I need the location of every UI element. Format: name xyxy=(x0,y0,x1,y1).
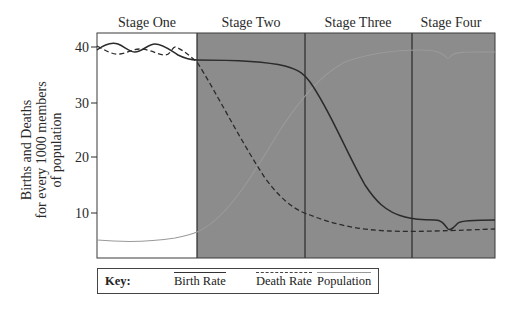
y-axis-label: Births and Deaths for every 1000 members… xyxy=(19,81,64,218)
legend-population: Population xyxy=(317,274,371,289)
ytick-20: 20 xyxy=(75,150,89,165)
death-rate-swatch xyxy=(256,272,312,273)
svg-text:for every 1000 members: for every 1000 members xyxy=(34,81,49,218)
stage-four-label: Stage Four xyxy=(420,15,481,30)
legend-death-rate: Death Rate xyxy=(256,274,312,289)
stage-one-area xyxy=(97,33,197,258)
legend-birth-rate: Birth Rate xyxy=(174,274,226,289)
dtm-chart: 40 30 20 10 Births and Deaths for every … xyxy=(0,0,510,311)
stage-three-label: Stage Three xyxy=(325,15,392,30)
stage-one-label: Stage One xyxy=(118,15,176,30)
y-ticks xyxy=(91,47,97,213)
stage-two-label: Stage Two xyxy=(221,15,280,30)
legend: Key: Birth Rate Death Rate Population xyxy=(97,268,379,294)
svg-text:of population: of population xyxy=(49,112,64,187)
population-swatch xyxy=(317,272,371,273)
ytick-40: 40 xyxy=(75,40,89,55)
legend-title: Key: xyxy=(105,274,131,289)
stage-shaded-area xyxy=(197,33,495,258)
svg-text:Births and Deaths: Births and Deaths xyxy=(19,100,34,200)
ytick-10: 10 xyxy=(75,206,89,221)
birth-rate-swatch xyxy=(174,272,226,273)
ytick-30: 30 xyxy=(75,96,89,111)
